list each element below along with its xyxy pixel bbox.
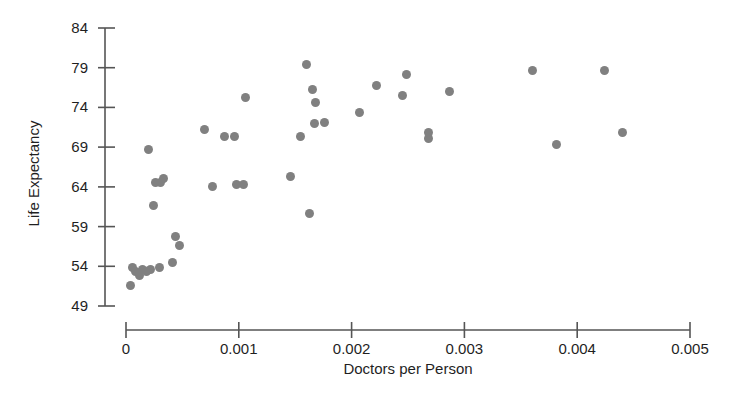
data-point	[308, 85, 317, 94]
scatter-plot-figure: 84 79 74 69 64 59 54 49 0 0.001 0.002 0.…	[0, 0, 750, 407]
data-point	[144, 145, 153, 154]
y-tick-label-69: 69	[48, 138, 88, 155]
x-axis-label: Doctors per Person	[126, 360, 690, 377]
data-point	[310, 119, 319, 128]
data-point	[302, 60, 311, 69]
y-tick-label-79: 79	[48, 59, 88, 76]
data-point	[220, 132, 229, 141]
data-point	[402, 70, 411, 79]
data-point	[175, 241, 184, 250]
y-tick-label-74: 74	[48, 98, 88, 115]
y-tick-label-64: 64	[48, 178, 88, 195]
y-tick-label-54: 54	[48, 257, 88, 274]
data-point	[149, 201, 158, 210]
y-axis-label: Life Expectancy	[25, 79, 42, 269]
x-tick-label-0.001: 0.001	[204, 340, 274, 357]
data-point	[239, 180, 248, 189]
data-point	[171, 232, 180, 241]
data-point	[398, 91, 407, 100]
x-tick-label-0: 0	[91, 340, 161, 357]
x-tick-label-0.002: 0.002	[317, 340, 387, 357]
x-tick-label-0.004: 0.004	[542, 340, 612, 357]
x-tick-label-0.003: 0.003	[429, 340, 499, 357]
y-tick-label-84: 84	[48, 19, 88, 36]
data-point	[208, 182, 217, 191]
data-point	[320, 118, 329, 127]
y-tick-label-59: 59	[48, 218, 88, 235]
data-point	[159, 174, 168, 183]
y-tick-label-49: 49	[48, 297, 88, 314]
data-point	[528, 66, 537, 75]
x-tick-label-0.005: 0.005	[655, 340, 725, 357]
data-point	[168, 258, 177, 267]
data-point	[126, 281, 135, 290]
